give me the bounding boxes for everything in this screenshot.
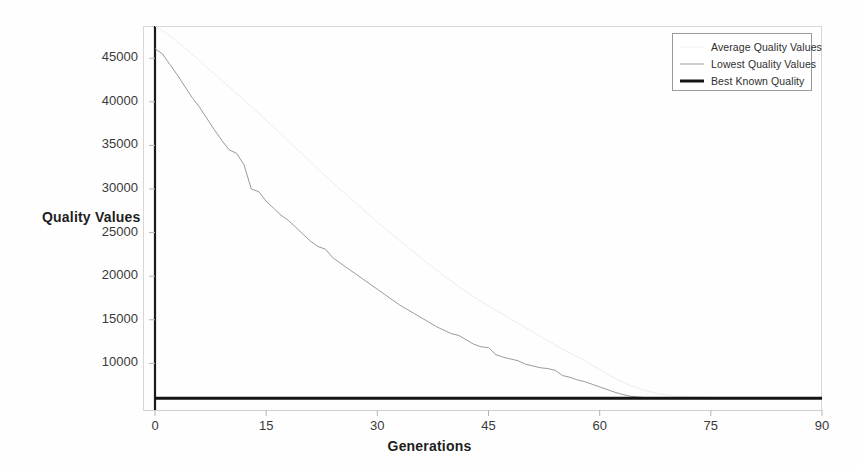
legend-item-average: Average Quality Values (673, 38, 811, 55)
legend-label-lowest: Lowest Quality Values (711, 58, 816, 70)
y-tick-label: 30000 (72, 180, 138, 195)
legend-swatch-line-gray-icon (679, 59, 705, 69)
legend-label-best: Best Known Quality (711, 75, 804, 87)
legend-label-average: Average Quality Values (711, 41, 822, 53)
x-axis-title: Generations (0, 438, 859, 454)
x-tick-label: 30 (357, 418, 397, 433)
x-tick-label: 90 (802, 418, 842, 433)
y-tick-label: 25000 (72, 224, 138, 239)
legend-item-lowest: Lowest Quality Values (673, 55, 811, 72)
x-tick-label: 15 (246, 418, 286, 433)
x-tick-label: 0 (135, 418, 175, 433)
legend-swatch-line-black-thick-icon (679, 76, 705, 86)
legend-swatch-line-light-icon (679, 42, 705, 52)
y-axis-title: Quality Values (42, 209, 141, 225)
y-tick-label: 20000 (72, 267, 138, 282)
y-tick-label: 35000 (72, 136, 138, 151)
series-line (155, 49, 822, 399)
y-tick-label: 45000 (72, 49, 138, 64)
y-tick-label: 40000 (72, 93, 138, 108)
x-tick-label: 45 (469, 418, 509, 433)
chart-legend: Average Quality Values Lowest Quality Va… (672, 33, 812, 91)
legend-item-best: Best Known Quality (673, 72, 811, 89)
chart-figure: Quality Values Generations 1000015000200… (0, 0, 859, 469)
x-tick-label: 75 (691, 418, 731, 433)
y-tick-label: 15000 (72, 311, 138, 326)
y-tick-label: 10000 (72, 354, 138, 369)
x-tick-label: 60 (580, 418, 620, 433)
